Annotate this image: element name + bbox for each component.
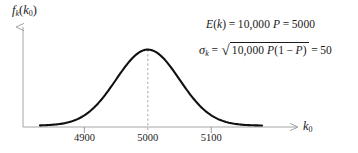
sigma-eq-paren-close: ) — [303, 44, 307, 56]
y-axis-label-paren-close: ) — [33, 3, 37, 17]
sigma-eq-minus: − — [284, 44, 296, 56]
sigma-equation-annotation: σk=√10,000 P(1−P)=50 — [199, 42, 332, 58]
mean-equation-annotation: E(k)=10,000 P=5000 — [206, 18, 315, 30]
sigma-eq-coefficient: 10,000 — [232, 44, 264, 56]
x-tick-label-4900: 4900 — [74, 132, 95, 143]
square-root-icon: √ — [222, 44, 230, 56]
gaussian-distribution-figure: fk(k0) k0 4900 5000 5100 E(k)=10,000 P=5… — [0, 0, 358, 153]
x-tick-label-5100: 5100 — [201, 132, 222, 143]
x-axis-label-sub: 0 — [309, 125, 313, 134]
x-axis-label: k0 — [303, 120, 313, 134]
sigma-eq-result: 50 — [320, 44, 332, 56]
gaussian-curve — [40, 50, 262, 126]
mean-eq-equals-2: = — [280, 18, 292, 30]
mean-eq-result: 5000 — [292, 18, 315, 30]
sigma-eq-p2: P — [296, 44, 303, 56]
y-axis-label: fk(k0) — [12, 4, 37, 18]
mean-eq-coefficient: 10,000 — [238, 18, 270, 30]
sigma-eq-radicand: 10,000 P(1−P) — [230, 42, 309, 56]
sigma-eq-radical: √10,000 P(1−P) — [221, 42, 309, 56]
sigma-eq-equals-1: = — [209, 44, 221, 56]
x-tick-label-5000: 5000 — [137, 132, 158, 143]
mean-eq-equals-1: = — [226, 18, 238, 30]
sigma-eq-equals-2: = — [309, 44, 321, 56]
